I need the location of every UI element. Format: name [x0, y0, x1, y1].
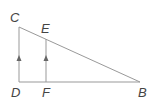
- label-e: E: [41, 21, 50, 36]
- parallel-arrow-icon: [44, 55, 49, 61]
- label-f: F: [42, 85, 51, 100]
- label-c: C: [10, 10, 20, 25]
- label-b: B: [138, 85, 147, 100]
- triangle-diagram: C E D F B: [0, 0, 152, 101]
- parallel-arrow-icon: [17, 55, 22, 61]
- segment-cb: [19, 27, 140, 82]
- label-d: D: [11, 85, 20, 100]
